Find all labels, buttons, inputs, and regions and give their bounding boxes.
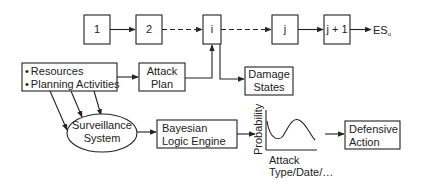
arrow-attack-plan-to-i bbox=[185, 45, 212, 78]
chain-box-j-plus-1: j + 1 bbox=[324, 15, 350, 44]
damage-states-line2: States bbox=[253, 81, 285, 93]
bayesian-line1: Bayesian bbox=[162, 122, 207, 134]
surveillance-system-node: Surveillance System bbox=[67, 114, 137, 152]
chain-label-j: j bbox=[283, 23, 286, 35]
arrow-i-to-damage-states bbox=[220, 44, 244, 79]
chain-label-i: i bbox=[211, 23, 213, 35]
bullet-planning-activities: •Planning Activities bbox=[25, 78, 120, 90]
end-state-label: ESu bbox=[373, 24, 391, 37]
defensive-line1: Defensive bbox=[349, 123, 398, 135]
attack-plan-line2: Plan bbox=[151, 78, 173, 90]
arrow-inputs-to-surveillance-1 bbox=[50, 91, 67, 130]
defensive-line2: Action bbox=[349, 136, 380, 148]
arrow-inputs-to-surveillance-2 bbox=[71, 91, 82, 117]
plot-ylabel: Probability bbox=[252, 103, 264, 155]
chain-label-1: 1 bbox=[94, 23, 100, 35]
chain-label-2: 2 bbox=[146, 23, 152, 35]
probability-curve bbox=[267, 119, 315, 140]
attack-plan-box: Attack Plan bbox=[139, 63, 185, 91]
attack-plan-line1: Attack bbox=[147, 65, 178, 77]
inputs-box: •Resources •Planning Activities bbox=[22, 63, 120, 91]
surveillance-line2: System bbox=[84, 132, 121, 144]
bullet-resources: •Resources bbox=[25, 65, 84, 77]
plot-xlabel-line1: Attack bbox=[269, 154, 300, 166]
chain-box-j: j bbox=[272, 15, 298, 44]
chain-box-2: 2 bbox=[136, 15, 162, 44]
surveillance-line1: Surveillance bbox=[72, 119, 132, 131]
attack-flow-diagram: 1 2 i j j + 1 ESu •Resources •Planning A… bbox=[0, 0, 421, 187]
damage-states-line1: Damage bbox=[248, 68, 290, 80]
bayesian-logic-engine-box: Bayesian Logic Engine bbox=[157, 120, 237, 148]
plot-xlabel-line2: Type/Date/… bbox=[269, 166, 333, 178]
chain-box-1: 1 bbox=[84, 15, 110, 44]
chain-label-j-plus-1: j + 1 bbox=[325, 23, 347, 35]
arrow-inputs-to-surveillance-3 bbox=[94, 91, 101, 115]
chain-box-i: i bbox=[203, 15, 221, 44]
probability-plot: Probability Attack Type/Date/… bbox=[252, 103, 333, 178]
defensive-action-box: Defensive Action bbox=[345, 121, 400, 149]
bayesian-line2: Logic Engine bbox=[162, 135, 226, 147]
damage-states-box: Damage States bbox=[245, 67, 293, 95]
